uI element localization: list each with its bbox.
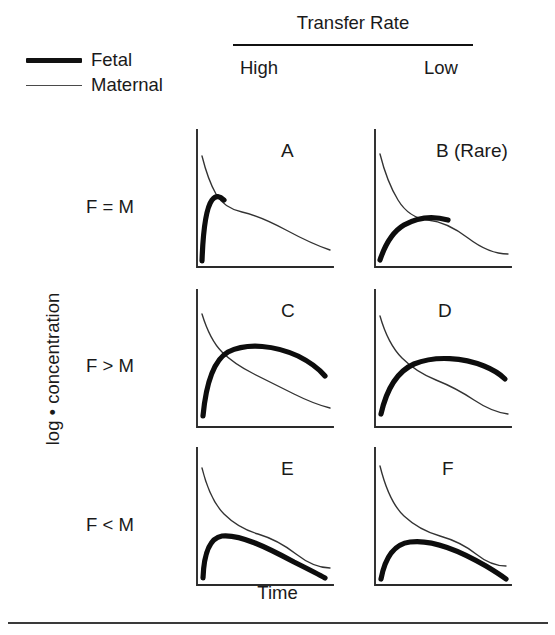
panel-e-plot bbox=[194, 446, 334, 588]
column-label-high: High bbox=[240, 57, 278, 79]
panel-a-plot bbox=[194, 128, 334, 270]
legend-item-fetal: Fetal bbox=[26, 48, 196, 73]
row-label-f-less-m: F < M bbox=[86, 514, 182, 536]
panel-b-fetal-curve bbox=[380, 218, 448, 260]
panel-letter-a: A bbox=[281, 140, 294, 162]
panel-f-fetal-curve bbox=[381, 542, 506, 579]
panel-d-curves bbox=[380, 316, 508, 414]
panel-e-maternal-curve bbox=[202, 468, 330, 568]
column-header-rule bbox=[233, 44, 473, 46]
panel-c-curves bbox=[202, 314, 330, 416]
row-label-f-equals-m: F = M bbox=[86, 196, 182, 218]
row-label-f-greater-m: F > M bbox=[86, 355, 182, 377]
legend-label-fetal: Fetal bbox=[82, 51, 132, 70]
figure-bottom-rule bbox=[8, 622, 548, 624]
panel-letter-c: C bbox=[281, 300, 295, 322]
panel-letter-f: F bbox=[442, 458, 454, 480]
panel-a bbox=[194, 128, 334, 270]
panel-a-maternal-curve bbox=[202, 156, 330, 250]
panel-d-fetal-curve bbox=[381, 358, 505, 414]
panel-b-maternal-curve bbox=[380, 154, 508, 254]
panel-f-curves bbox=[380, 466, 506, 579]
legend: Fetal Maternal bbox=[26, 48, 196, 98]
panel-e-curves bbox=[202, 468, 330, 578]
panel-c-fetal-curve bbox=[203, 346, 325, 416]
panel-c-plot bbox=[194, 288, 334, 430]
panel-e bbox=[194, 446, 334, 588]
legend-label-maternal: Maternal bbox=[82, 76, 163, 95]
panel-letter-d: D bbox=[438, 300, 452, 322]
pharmacokinetic-figure: Fetal Maternal Transfer Rate High Low F … bbox=[0, 0, 555, 635]
y-axis-label: log • concentration bbox=[42, 254, 64, 484]
panel-d-maternal-curve bbox=[380, 316, 508, 414]
panel-b-curves bbox=[380, 154, 508, 260]
panel-letter-b: B (Rare) bbox=[436, 140, 508, 162]
fetal-line-swatch-icon bbox=[26, 58, 82, 63]
panel-a-curves bbox=[202, 156, 330, 261]
maternal-line-swatch-icon bbox=[26, 85, 82, 86]
panel-a-fetal-curve bbox=[202, 197, 224, 261]
panel-c bbox=[194, 288, 334, 430]
panel-e-fetal-curve bbox=[203, 536, 325, 578]
column-label-low: Low bbox=[424, 57, 458, 79]
panel-f-maternal-curve bbox=[380, 466, 506, 566]
legend-item-maternal: Maternal bbox=[26, 73, 196, 98]
column-header-title: Transfer Rate bbox=[233, 12, 473, 34]
panel-letter-e: E bbox=[281, 458, 294, 480]
